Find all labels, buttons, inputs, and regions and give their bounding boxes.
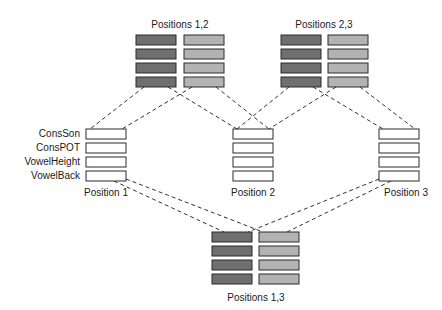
p13-light-box-3 — [259, 274, 299, 284]
p2-feature-box-3 — [233, 171, 273, 181]
p12-light-box-3 — [184, 77, 224, 87]
p3-feature-box-1 — [379, 143, 419, 153]
positions-1-2-label: Positions 1,2 — [151, 19, 209, 30]
position-3-label: Position 3 — [384, 187, 428, 198]
p12-dark-box-3 — [136, 77, 176, 87]
p13-light-box-2 — [259, 260, 299, 270]
position-2-label: Position 2 — [231, 187, 275, 198]
p12-dark-box-1 — [136, 49, 176, 59]
p23-dark-box-0 — [281, 35, 321, 45]
p1-feature-box-0 — [86, 129, 126, 139]
positions-1-3-label: Positions 1,3 — [227, 292, 285, 303]
p3-feature-box-3 — [379, 171, 419, 181]
p12-line-dark-to-p1 — [90, 87, 144, 129]
p23-light-box-3 — [328, 77, 368, 87]
p13-dark-box-3 — [212, 274, 252, 284]
p23-line-light-to-p3 — [360, 87, 415, 129]
p13-dark-box-1 — [212, 246, 252, 256]
p23-dark-box-3 — [281, 77, 321, 87]
p3-feature-box-0 — [379, 129, 419, 139]
p2-feature-box-0 — [233, 129, 273, 139]
p23-dark-box-2 — [281, 63, 321, 73]
position-pairs-diagram: ConsSon ConsPOT VowelHeight VowelBack Po… — [0, 0, 442, 310]
p13-dark-box-2 — [212, 260, 252, 270]
feature-label-vowelback: VowelBack — [31, 170, 81, 181]
p12-light-box-0 — [184, 35, 224, 45]
feature-boxes — [86, 35, 419, 284]
p23-light-box-0 — [328, 35, 368, 45]
feature-label-conssson: ConsSon — [39, 128, 80, 139]
p12-dark-box-0 — [136, 35, 176, 45]
p2-feature-box-2 — [233, 157, 273, 167]
p12-dark-box-2 — [136, 63, 176, 73]
p23-line-light-to-p2 — [269, 87, 336, 129]
p13-light-box-1 — [259, 246, 299, 256]
p23-light-box-1 — [328, 49, 368, 59]
p23-line-dark-to-p3 — [313, 87, 383, 129]
p12-line-light-to-p1 — [122, 87, 192, 129]
p13-dark-box-0 — [212, 232, 252, 242]
position-1-label: Position 1 — [84, 187, 128, 198]
p13-line-dark-from-p1 — [114, 181, 224, 232]
p2-feature-box-1 — [233, 143, 273, 153]
p23-dark-box-1 — [281, 49, 321, 59]
p3-feature-box-2 — [379, 157, 419, 167]
feature-label-vowelheight: VowelHeight — [24, 156, 80, 167]
p23-line-dark-to-p2 — [237, 87, 289, 129]
p1-feature-box-2 — [86, 157, 126, 167]
p12-light-box-2 — [184, 63, 224, 73]
p13-light-box-0 — [259, 232, 299, 242]
p1-feature-box-1 — [86, 143, 126, 153]
p1-feature-box-3 — [86, 171, 126, 181]
positions-2-3-label: Positions 2,3 — [295, 19, 353, 30]
p13-line-light-from-p3 — [287, 181, 391, 232]
p12-light-box-1 — [184, 49, 224, 59]
feature-label-conspot: ConsPOT — [36, 142, 80, 153]
p12-line-light-to-p2 — [216, 87, 269, 129]
p23-light-box-2 — [328, 63, 368, 73]
p12-line-dark-to-p2 — [168, 87, 237, 129]
